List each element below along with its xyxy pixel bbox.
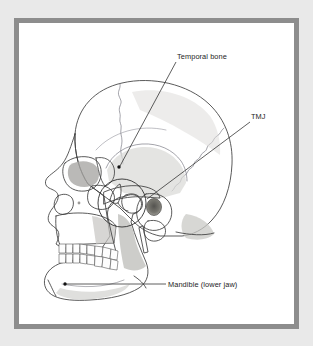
skull-diagram-svg: Temporal bone TMJ Mandible (lower jaw)	[0, 0, 313, 346]
tooth-lower	[59, 254, 66, 263]
ear-mastoid-group	[137, 193, 172, 253]
gonial-angle	[134, 276, 146, 288]
tooth-lower	[66, 254, 73, 263]
occipital-bone	[182, 214, 215, 240]
label-mandible: Mandible (lower jaw)	[168, 280, 237, 289]
tooth-lower	[73, 254, 80, 263]
leader-dot-temporal-bone	[117, 165, 120, 168]
tooth-upper	[80, 244, 87, 254]
label-temporal-bone: Temporal bone	[177, 52, 227, 61]
external-auditory-meatus	[147, 199, 162, 216]
temporal-line	[96, 128, 166, 150]
tooth-lower	[110, 259, 118, 270]
figure-root: Temporal bone TMJ Mandible (lower jaw)	[0, 0, 313, 346]
tooth-upper	[59, 244, 66, 253]
label-tmj: TMJ	[251, 112, 266, 121]
mandible-oblique-line	[62, 280, 124, 287]
parietal-shading	[132, 90, 220, 155]
tooth-upper	[73, 244, 80, 253]
tooth-lower	[95, 256, 104, 267]
nasal-aperture	[54, 194, 73, 214]
infraorbital-foramen	[78, 202, 81, 205]
tooth-upper	[95, 246, 104, 257]
orbit-inner-shadow	[68, 161, 99, 187]
tooth-lower	[80, 254, 87, 264]
mental-protuberance	[48, 280, 56, 296]
temporal-bone-squama	[107, 147, 186, 199]
tooth-upper	[66, 244, 73, 253]
maxilla-shading	[92, 216, 116, 244]
leader-dot-mandible	[63, 282, 66, 285]
tooth-lower	[87, 255, 95, 265]
tooth-lower	[102, 257, 111, 269]
tooth-upper	[110, 249, 118, 260]
tooth-upper	[87, 245, 95, 255]
